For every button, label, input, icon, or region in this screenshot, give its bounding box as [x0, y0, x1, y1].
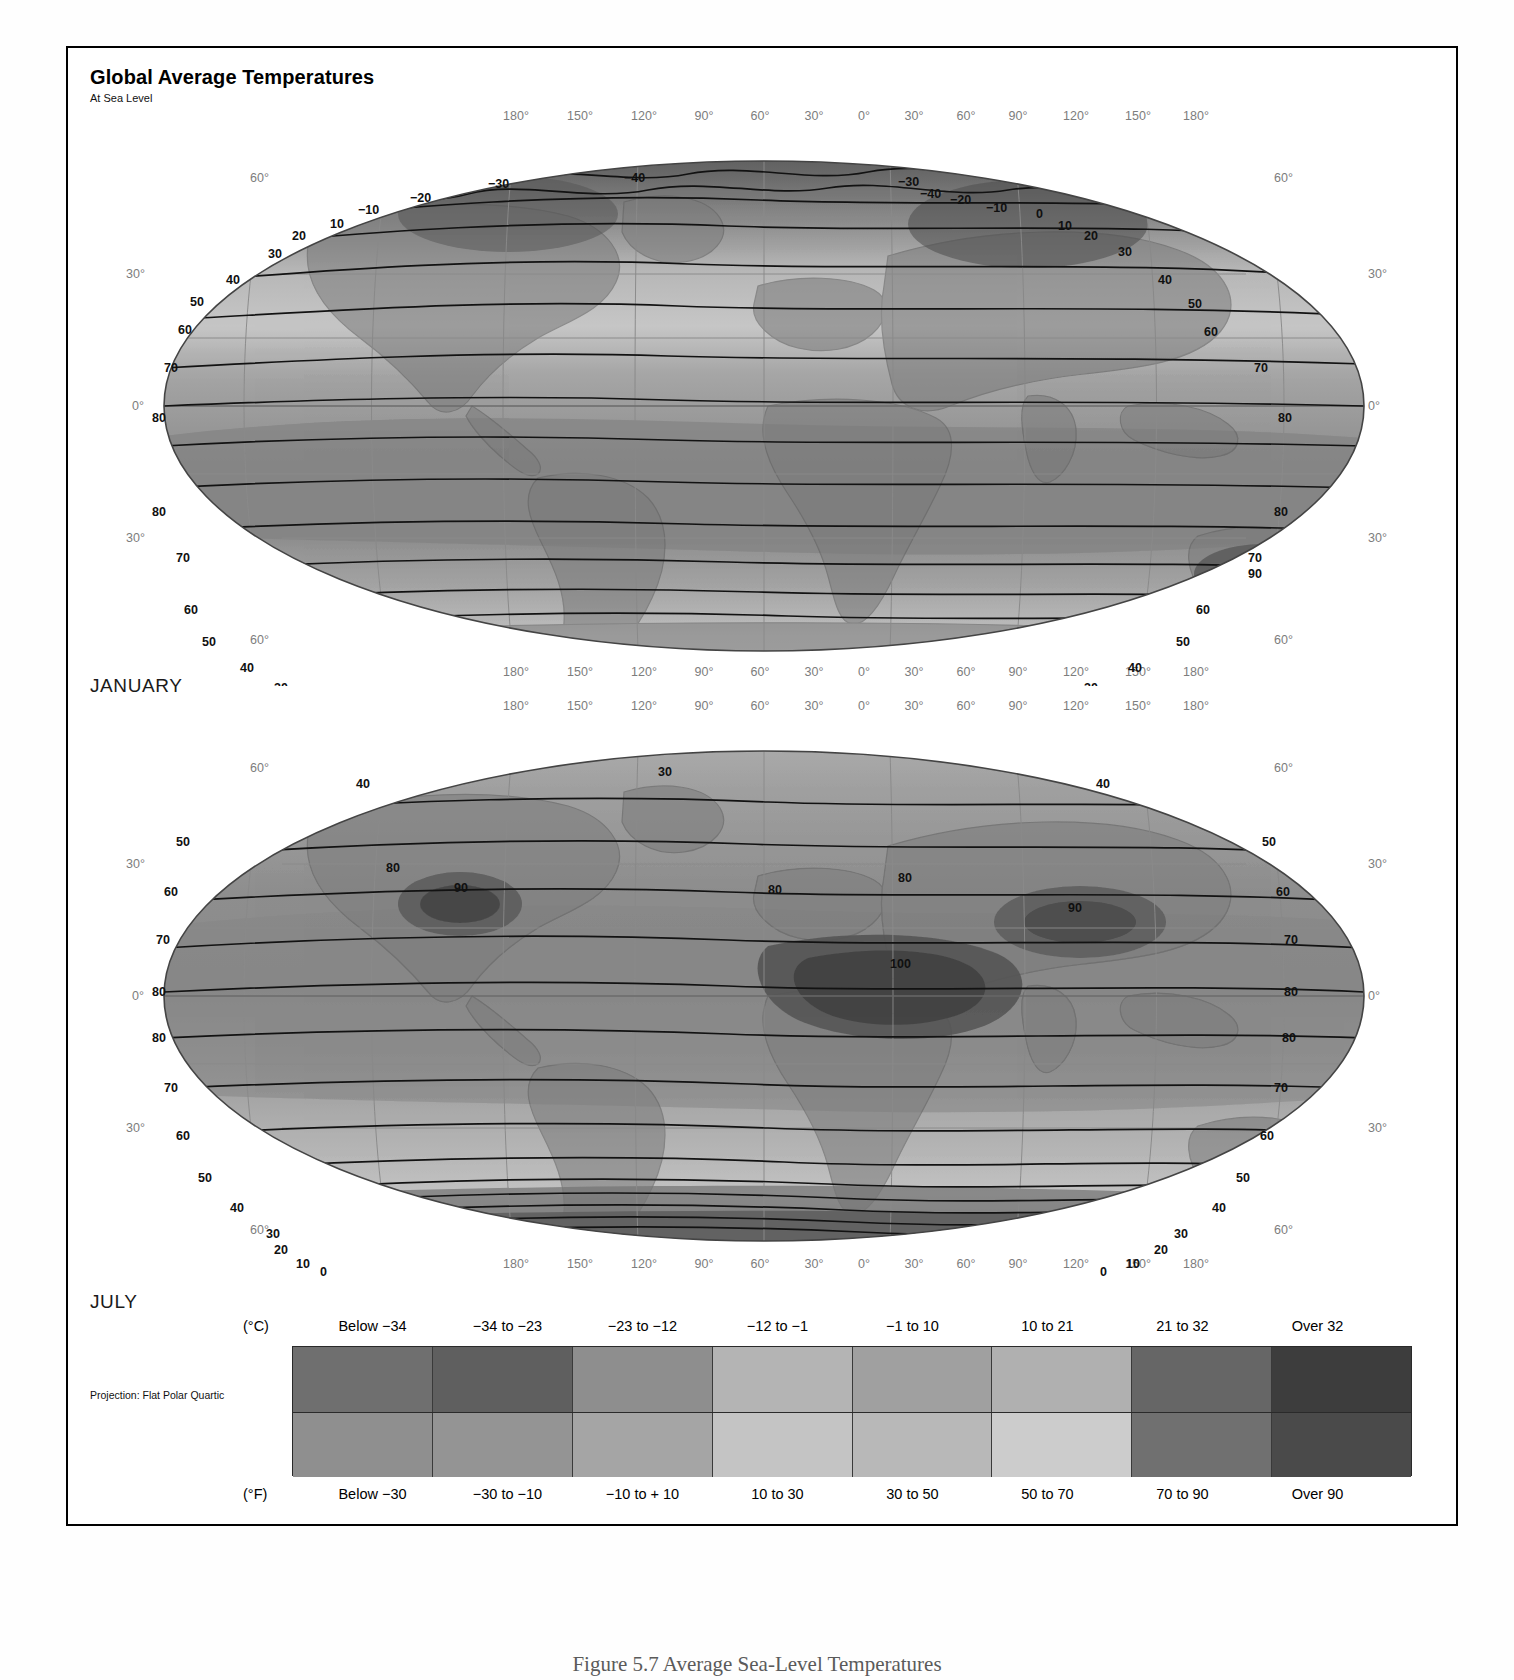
- svg-text:40: 40: [1128, 661, 1142, 675]
- svg-text:60°: 60°: [751, 109, 770, 123]
- legend-f-bin-0: Below −30: [305, 1486, 440, 1502]
- svg-text:60°: 60°: [957, 665, 976, 679]
- legend-f-bin-2: −10 to + 10: [575, 1486, 710, 1502]
- svg-text:70: 70: [164, 1081, 178, 1095]
- legend-swatch-top-1: [433, 1347, 573, 1412]
- svg-text:50: 50: [1262, 835, 1276, 849]
- svg-text:120°: 120°: [631, 1257, 657, 1271]
- svg-text:90°: 90°: [695, 699, 714, 713]
- svg-text:30: 30: [658, 765, 672, 779]
- svg-text:80: 80: [152, 411, 166, 425]
- svg-text:−20: −20: [950, 193, 971, 207]
- svg-text:80: 80: [1274, 505, 1288, 519]
- svg-text:90°: 90°: [1009, 1257, 1028, 1271]
- svg-text:50: 50: [202, 635, 216, 649]
- legend-celsius-unit: (°C): [243, 1318, 305, 1334]
- svg-text:0: 0: [1036, 207, 1043, 221]
- svg-text:40: 40: [1096, 777, 1110, 791]
- svg-text:70: 70: [1254, 361, 1268, 375]
- svg-text:120°: 120°: [631, 699, 657, 713]
- legend-swatch-bottom-4: [853, 1413, 993, 1477]
- svg-text:30: 30: [1118, 245, 1132, 259]
- svg-text:70: 70: [1274, 1081, 1288, 1095]
- svg-text:30°: 30°: [126, 267, 145, 281]
- svg-text:180°: 180°: [1183, 109, 1209, 123]
- legend-swatch-bottom-3: [713, 1413, 853, 1477]
- svg-text:30°: 30°: [1368, 531, 1387, 545]
- page-subtitle: At Sea Level: [90, 92, 152, 104]
- svg-text:60°: 60°: [751, 1257, 770, 1271]
- svg-text:0°: 0°: [1368, 399, 1380, 413]
- svg-text:20: 20: [1084, 229, 1098, 243]
- svg-text:40: 40: [356, 777, 370, 791]
- svg-text:180°: 180°: [503, 699, 529, 713]
- svg-text:60°: 60°: [751, 665, 770, 679]
- svg-text:80: 80: [152, 985, 166, 999]
- legend-f-bin-6: 70 to 90: [1115, 1486, 1250, 1502]
- legend-c-bin-7: Over 32: [1250, 1318, 1385, 1334]
- legend-swatch-bottom-6: [1132, 1413, 1272, 1477]
- svg-text:70: 70: [164, 361, 178, 375]
- svg-text:60°: 60°: [957, 109, 976, 123]
- svg-text:60: 60: [1276, 885, 1290, 899]
- svg-text:50: 50: [1188, 297, 1202, 311]
- svg-text:−10: −10: [986, 201, 1007, 215]
- svg-text:30°: 30°: [126, 531, 145, 545]
- svg-text:60: 60: [1196, 603, 1210, 617]
- svg-text:10: 10: [330, 217, 344, 231]
- map-plate-frame: Global Average Temperatures At Sea Level: [66, 46, 1458, 1526]
- svg-text:70: 70: [176, 551, 190, 565]
- svg-text:0: 0: [1100, 1265, 1107, 1276]
- svg-text:30°: 30°: [905, 665, 924, 679]
- legend-swatch-bottom-5: [992, 1413, 1132, 1477]
- svg-text:40: 40: [1158, 273, 1172, 287]
- svg-text:30°: 30°: [1368, 267, 1387, 281]
- svg-text:60°: 60°: [1274, 633, 1293, 647]
- svg-text:−40: −40: [920, 187, 941, 201]
- svg-text:180°: 180°: [503, 109, 529, 123]
- map-panel-january[interactable]: 180°150°120° 90°60°30° 0°30°60° 90°120°1…: [68, 106, 1460, 686]
- svg-text:20: 20: [1154, 1243, 1168, 1257]
- legend-c-bin-3: −12 to −1: [710, 1318, 845, 1334]
- svg-text:50: 50: [1236, 1171, 1250, 1185]
- svg-text:120°: 120°: [1063, 1257, 1089, 1271]
- svg-text:90: 90: [454, 881, 468, 895]
- svg-text:30°: 30°: [1368, 1121, 1387, 1135]
- svg-text:120°: 120°: [631, 109, 657, 123]
- legend-swatch-top-2: [573, 1347, 713, 1412]
- svg-text:30: 30: [268, 247, 282, 261]
- legend-swatch-bottom-7: [1272, 1413, 1411, 1477]
- svg-text:30°: 30°: [805, 665, 824, 679]
- svg-text:−30: −30: [488, 177, 509, 191]
- svg-text:150°: 150°: [567, 109, 593, 123]
- svg-text:20: 20: [292, 229, 306, 243]
- legend-f-bin-5: 50 to 70: [980, 1486, 1115, 1502]
- svg-text:10: 10: [1058, 219, 1072, 233]
- svg-text:90: 90: [1068, 901, 1082, 915]
- legend-strip-bottom: [293, 1412, 1411, 1477]
- svg-text:30°: 30°: [805, 699, 824, 713]
- svg-text:30°: 30°: [1368, 857, 1387, 871]
- svg-text:150°: 150°: [1125, 109, 1151, 123]
- legend-fahrenheit-labels: (°F) Below −30 −30 to −10 −10 to + 10 10…: [243, 1486, 1393, 1502]
- svg-text:60°: 60°: [250, 171, 269, 185]
- legend-swatch-top-4: [853, 1347, 993, 1412]
- svg-text:0°: 0°: [858, 109, 870, 123]
- svg-text:60°: 60°: [250, 761, 269, 775]
- svg-text:80: 80: [152, 505, 166, 519]
- svg-text:40: 40: [226, 273, 240, 287]
- legend-swatch-top-7: [1272, 1347, 1411, 1412]
- svg-text:60°: 60°: [1274, 171, 1293, 185]
- legend-c-bin-2: −23 to −12: [575, 1318, 710, 1334]
- legend-f-bin-1: −30 to −10: [440, 1486, 575, 1502]
- legend-c-bin-4: −1 to 10: [845, 1318, 980, 1334]
- svg-text:150°: 150°: [567, 1257, 593, 1271]
- svg-text:60: 60: [178, 323, 192, 337]
- map-panel-july[interactable]: 180°150°120° 90°60°30° 0°30°60° 90°120°1…: [68, 696, 1460, 1276]
- legend-strip-top: [293, 1347, 1411, 1412]
- svg-text:180°: 180°: [1183, 699, 1209, 713]
- legend-c-bin-5: 10 to 21: [980, 1318, 1115, 1334]
- svg-text:80: 80: [768, 883, 782, 897]
- svg-text:40: 40: [1212, 1201, 1226, 1215]
- legend-celsius-labels: (°C) Below −34 −34 to −23 −23 to −12 −12…: [243, 1318, 1393, 1334]
